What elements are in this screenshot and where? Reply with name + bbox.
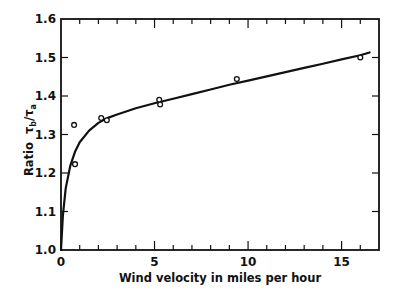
data-points <box>72 55 363 166</box>
y-tick-label: 1.1 <box>35 205 56 219</box>
x-tick-label: 15 <box>333 255 350 269</box>
y-axis-label: Ratio τb/τa <box>22 104 38 176</box>
data-point <box>99 116 104 121</box>
axis-ticks <box>61 19 379 250</box>
chart: 1.01.11.21.31.41.51.6 051015 Wind veloci… <box>0 0 395 300</box>
y-tick-label: 1.0 <box>35 243 56 257</box>
data-point <box>72 122 77 127</box>
svg-text:Ratio τb/τa: Ratio τb/τa <box>22 104 38 176</box>
data-point <box>158 102 163 107</box>
y-tick-label: 1.5 <box>35 51 56 65</box>
x-tick-label: 5 <box>150 255 158 269</box>
y-tick-labels: 1.01.11.21.31.41.51.6 <box>35 12 56 257</box>
y-tick-label: 1.2 <box>35 166 56 180</box>
x-tick-label: 0 <box>57 255 65 269</box>
fitted-curve <box>61 53 370 251</box>
data-point <box>234 77 239 82</box>
x-axis-label: Wind velocity in miles per hour <box>119 271 322 285</box>
data-point <box>73 162 78 167</box>
y-tick-label: 1.4 <box>35 89 56 103</box>
x-tick-labels: 051015 <box>57 255 350 269</box>
data-point <box>358 55 363 60</box>
y-axis-label-text: Ratio <box>22 142 36 176</box>
data-point <box>104 118 109 123</box>
plot-frame <box>61 19 379 250</box>
x-tick-label: 10 <box>240 255 257 269</box>
y-tick-label: 1.3 <box>35 128 56 142</box>
plot-border <box>61 19 379 250</box>
y-tick-label: 1.6 <box>35 12 56 26</box>
